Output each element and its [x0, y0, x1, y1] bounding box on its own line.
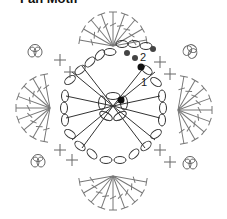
marker-dot	[124, 50, 130, 56]
marker-dot	[132, 55, 138, 61]
fan-top	[79, 12, 147, 50]
marker-dot	[150, 46, 156, 52]
crochet-chart: 2 1	[0, 0, 227, 219]
chain-loops	[61, 41, 167, 164]
row1-label: 1	[141, 76, 147, 88]
row2-start-dot	[138, 64, 145, 71]
row2-label: 2	[140, 51, 146, 63]
fan-right	[174, 76, 212, 144]
fan-left	[16, 74, 54, 142]
row1-start-dot	[118, 97, 125, 104]
single-crochet-marks	[54, 54, 176, 168]
fan-bottom	[79, 172, 147, 210]
